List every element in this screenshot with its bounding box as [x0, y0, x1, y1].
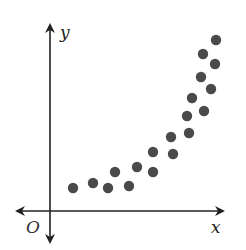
data-point	[211, 35, 221, 45]
data-point	[103, 183, 113, 193]
data-point	[198, 49, 208, 59]
data-point	[168, 149, 178, 159]
data-point	[124, 181, 134, 191]
data-point	[166, 132, 176, 142]
origin-label: O	[26, 217, 40, 237]
data-point	[196, 72, 206, 82]
data-point	[110, 167, 120, 177]
data-point	[68, 183, 78, 193]
data-point	[132, 162, 142, 172]
x-axis-label: x	[211, 217, 221, 237]
data-point	[210, 59, 220, 69]
data-point	[148, 147, 158, 157]
data-points	[68, 35, 221, 193]
data-point	[187, 93, 197, 103]
data-point	[88, 178, 98, 188]
data-point	[184, 128, 194, 138]
scatter-plot: y x O	[0, 0, 246, 250]
data-point	[199, 106, 209, 116]
data-point	[148, 167, 158, 177]
data-point	[206, 84, 216, 94]
y-axis-label: y	[59, 22, 70, 42]
data-point	[182, 111, 192, 121]
